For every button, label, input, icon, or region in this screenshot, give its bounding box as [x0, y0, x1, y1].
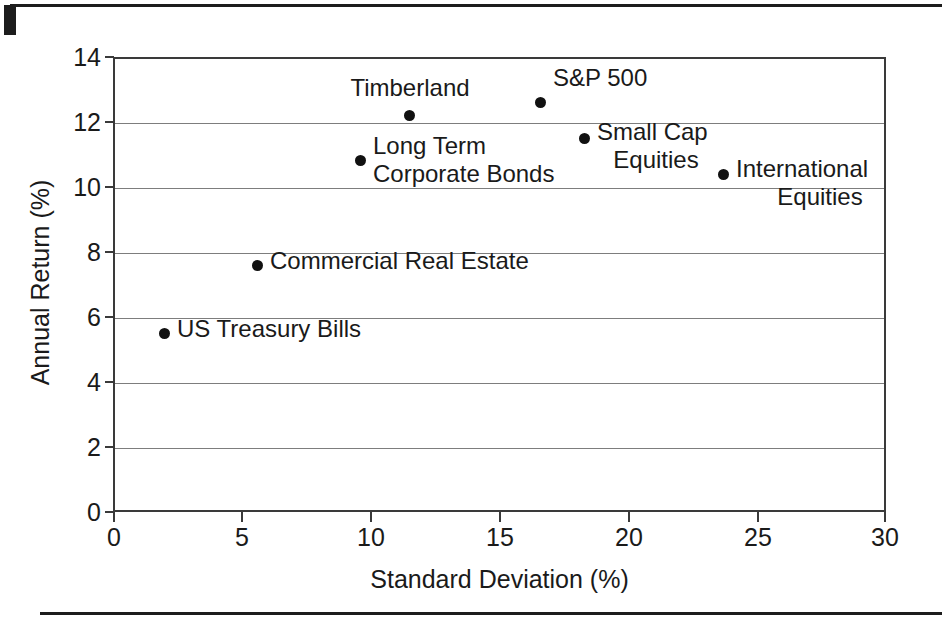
y-tick-label-12: 12: [55, 110, 101, 135]
x-tick-mark-5: [241, 512, 243, 522]
datapoint-label-small-cap-equities-line1: Small Cap: [597, 118, 708, 146]
y-tick-label-2: 2: [55, 435, 101, 460]
x-tick-mark-30: [884, 512, 886, 522]
x-tick-mark-20: [628, 512, 630, 522]
x-tick-label-30: 30: [855, 525, 915, 550]
datapoint-label-sp-500: S&P 500: [553, 64, 647, 92]
datapoint-sp-500[interactable]: [535, 97, 546, 108]
x-tick-label-5: 5: [212, 525, 272, 550]
y-tick-label-0: 0: [55, 500, 101, 525]
x-tick-mark-10: [370, 512, 372, 522]
x-tick-mark-15: [499, 512, 501, 522]
datapoint-label-commercial-real-estate: Commercial Real Estate: [270, 247, 529, 275]
page-canvas: Annual Return (%) 14 12 10 8 6 4 2 0: [0, 0, 942, 632]
x-axis-title: Standard Deviation (%): [113, 565, 886, 594]
x-tick-label-25: 25: [728, 525, 788, 550]
x-tick-label-0: 0: [84, 525, 144, 550]
datapoint-label-timberland: Timberland: [340, 74, 480, 102]
datapoint-label-international-equities-line2: Equities: [736, 183, 904, 211]
y-tick-label-8: 8: [55, 240, 101, 265]
datapoint-label-long-term-corporate-bonds-line1: Long Term: [373, 132, 486, 160]
y-tick-label-6: 6: [55, 305, 101, 330]
x-tick-label-10: 10: [341, 525, 401, 550]
y-tick-label-10: 10: [55, 175, 101, 200]
plot-area: [113, 57, 886, 512]
gridline-12: [115, 123, 884, 124]
x-tick-label-15: 15: [470, 525, 530, 550]
x-tick-mark-25: [757, 512, 759, 522]
y-axis-title: Annual Return (%): [26, 123, 55, 443]
datapoint-commercial-real-estate[interactable]: [252, 260, 263, 271]
datapoint-international-equities[interactable]: [718, 169, 729, 180]
scatter-chart-figure: Annual Return (%) 14 12 10 8 6 4 2 0: [0, 0, 942, 632]
datapoint-us-treasury-bills[interactable]: [159, 328, 170, 339]
x-tick-label-20: 20: [599, 525, 659, 550]
datapoint-label-international-equities-line1: International: [736, 155, 868, 183]
y-tick-label-14: 14: [55, 45, 101, 70]
datapoint-label-long-term-corporate-bonds-line2: Corporate Bonds: [373, 160, 554, 188]
datapoint-label-small-cap-equities-line2: Equities: [597, 146, 715, 174]
datapoint-timberland[interactable]: [404, 110, 415, 121]
gridline-2: [115, 448, 884, 449]
x-tick-mark-0: [113, 512, 115, 522]
datapoint-label-us-treasury-bills: US Treasury Bills: [177, 315, 361, 343]
gridline-4: [115, 383, 884, 384]
y-tick-label-4: 4: [55, 370, 101, 395]
datapoint-long-term-corporate-bonds[interactable]: [355, 155, 366, 166]
datapoint-small-cap-equities[interactable]: [579, 133, 590, 144]
